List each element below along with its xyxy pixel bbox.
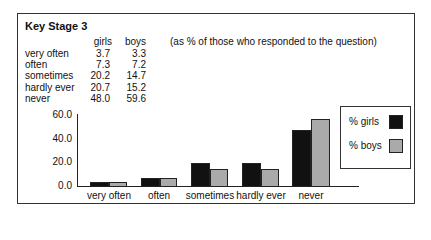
row-boys: 14.7 (118, 70, 146, 81)
row-girls: 7.3 (82, 59, 110, 70)
row-boys: 59.6 (118, 93, 146, 104)
row-boys: 15.2 (118, 82, 146, 93)
row-girls: 3.7 (82, 48, 110, 59)
legend-label-girls: % girls (349, 116, 379, 127)
bar-girls-hardly-ever (242, 163, 261, 187)
legend: % girls % boys (340, 106, 411, 169)
row-girls: 20.7 (82, 82, 110, 93)
bar-girls-very-often (90, 182, 109, 187)
legend-swatch-girls (389, 115, 403, 129)
row-label: hardly ever (25, 82, 74, 93)
y-axis (77, 114, 78, 187)
row-girls: 48.0 (82, 93, 110, 104)
bar-boys-often (160, 178, 177, 187)
y-tick: 40.0 (28, 133, 72, 144)
row-boys: 7.2 (118, 59, 146, 70)
x-label: never (276, 190, 346, 201)
bar-boys-very-often (109, 182, 127, 187)
table-note: (as % of those who responded to the ques… (170, 36, 377, 47)
row-label: very often (25, 48, 69, 59)
legend-swatch-boys (389, 139, 403, 153)
y-tick: 20.0 (28, 156, 72, 167)
row-label: often (25, 59, 47, 70)
bar-boys-never (311, 119, 330, 187)
row-label: never (25, 93, 50, 104)
y-tick: 60.0 (28, 109, 72, 120)
row-boys: 3.3 (118, 48, 146, 59)
header-boys: boys (118, 36, 146, 47)
y-tick: 0.0 (28, 180, 72, 191)
row-label: sometimes (25, 70, 73, 81)
legend-label-boys: % boys (349, 140, 382, 151)
bar-girls-often (141, 178, 160, 187)
header-girls: girls (84, 36, 112, 47)
bar-girls-never (292, 130, 311, 187)
bar-boys-sometimes (210, 169, 228, 187)
bar-girls-sometimes (191, 163, 210, 187)
chart-title: Key Stage 3 (25, 20, 87, 32)
row-girls: 20.2 (82, 70, 110, 81)
bar-boys-hardly-ever (261, 169, 279, 187)
